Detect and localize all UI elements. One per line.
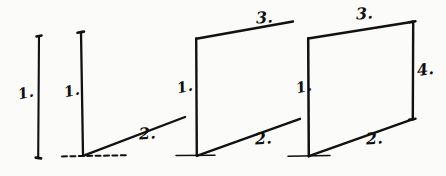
stage1-bottom-serif [36,158,41,159]
stage4-bottom-right-serif [409,119,416,120]
stage4-label-4: 4. [416,61,435,79]
stage2-label-1: 1. [63,83,81,101]
stage-3-group [176,22,300,156]
stage1-top-serif [37,36,42,37]
stage4-top-line-3 [308,22,413,39]
stage2-diagonal-line-2 [83,117,185,156]
stage3-label-2: 2. [254,130,272,147]
stage4-vertical-line-1 [308,38,309,156]
stage4-label-2: 2. [365,130,383,147]
stage3-label-1: 1. [176,79,194,97]
stage2-label-2: 2. [138,125,156,142]
stage1-label-1: 1. [17,85,35,103]
stage3-bottom-line-2 [197,119,300,156]
stage-1-group [36,36,42,159]
stage2-dashed-ground-line [62,155,128,156]
stage3-vertical-line-1 [196,39,197,156]
stage2-vertical-line-1 [81,32,83,156]
stage4-bottom-line-2 [309,119,413,156]
stage3-label-3: 3. [256,10,274,27]
stage4-label-1: 1. [295,79,313,97]
stage4-top-right-serif [410,21,416,22]
stage4-label-3: 3. [356,6,374,23]
drawing-canvas: 1. 1. 2. 1. 2. 3. 1. 2. 3. 4. [0,0,446,176]
stage2-top-serif [78,32,85,33]
stage1-vertical-line-1 [38,36,39,158]
stage3-top-line-3 [196,22,293,39]
